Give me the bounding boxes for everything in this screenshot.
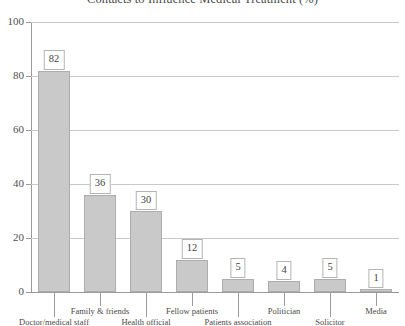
x-axis-tick: [238, 293, 239, 317]
x-axis-tick: [100, 293, 101, 306]
x-axis-label: Patients association: [205, 318, 272, 326]
bar[interactable]: [268, 281, 300, 292]
bar-group: 12: [176, 22, 208, 292]
y-axis-tick: [26, 130, 31, 131]
x-axis-label: Solicitor: [315, 318, 344, 326]
bar-value-label: 82: [44, 50, 65, 70]
bar-value-label: 36: [90, 174, 111, 194]
bar[interactable]: [176, 260, 208, 292]
bar-group: 30: [130, 22, 162, 292]
bar[interactable]: [130, 211, 162, 292]
x-axis-label: Family & friends: [71, 307, 130, 316]
bar-value-label: 30: [136, 191, 157, 211]
y-axis-tick: [26, 238, 31, 239]
y-axis-tick: [26, 292, 31, 293]
y-axis-labels: 020406080100: [0, 0, 24, 326]
x-axis-label: Media: [365, 307, 387, 316]
bar-group: 82: [38, 22, 70, 292]
bar-group: 5: [314, 22, 346, 292]
x-axis-tick: [284, 293, 285, 306]
bar-group: 5: [222, 22, 254, 292]
gridline: [31, 292, 399, 293]
bar-group: 36: [84, 22, 116, 292]
y-axis-tick-label: 80: [0, 70, 24, 81]
bar-group: 4: [268, 22, 300, 292]
y-axis-tick: [26, 184, 31, 185]
y-axis-tick-label: 40: [0, 178, 24, 189]
x-axis-tick: [192, 293, 193, 306]
y-axis-tick-label: 100: [0, 16, 24, 27]
y-axis-tick-label: 60: [0, 124, 24, 135]
y-axis-tick-label: 20: [0, 232, 24, 243]
bar-value-label: 5: [322, 258, 337, 278]
bar[interactable]: [222, 279, 254, 293]
x-axis-label: Doctor/medical staff: [19, 318, 89, 326]
x-axis-tick: [330, 293, 331, 317]
bar[interactable]: [38, 71, 70, 292]
y-axis-tick-label: 0: [0, 286, 24, 297]
x-axis-tick: [54, 293, 55, 317]
bar[interactable]: [360, 289, 392, 292]
bar[interactable]: [314, 279, 346, 293]
bar-chart: Contacts to Influence Medical Treatment …: [0, 0, 405, 326]
bar-group: 1: [360, 22, 392, 292]
bar-value-label: 5: [230, 258, 245, 278]
bar-value-label: 12: [182, 239, 203, 259]
bar-value-label: 1: [368, 269, 383, 289]
x-axis-label: Politician: [268, 307, 301, 316]
plot-area: 823630125451: [31, 22, 399, 292]
bar-value-label: 4: [276, 261, 291, 281]
x-axis-tick: [146, 293, 147, 317]
chart-title: Contacts to Influence Medical Treatment …: [0, 0, 405, 7]
y-axis-tick: [26, 76, 31, 77]
x-axis-label: Health official: [121, 318, 170, 326]
x-axis-label: Fellow patients: [166, 307, 218, 316]
y-axis-tick: [26, 22, 31, 23]
x-axis-tick: [376, 293, 377, 306]
bar[interactable]: [84, 195, 116, 292]
